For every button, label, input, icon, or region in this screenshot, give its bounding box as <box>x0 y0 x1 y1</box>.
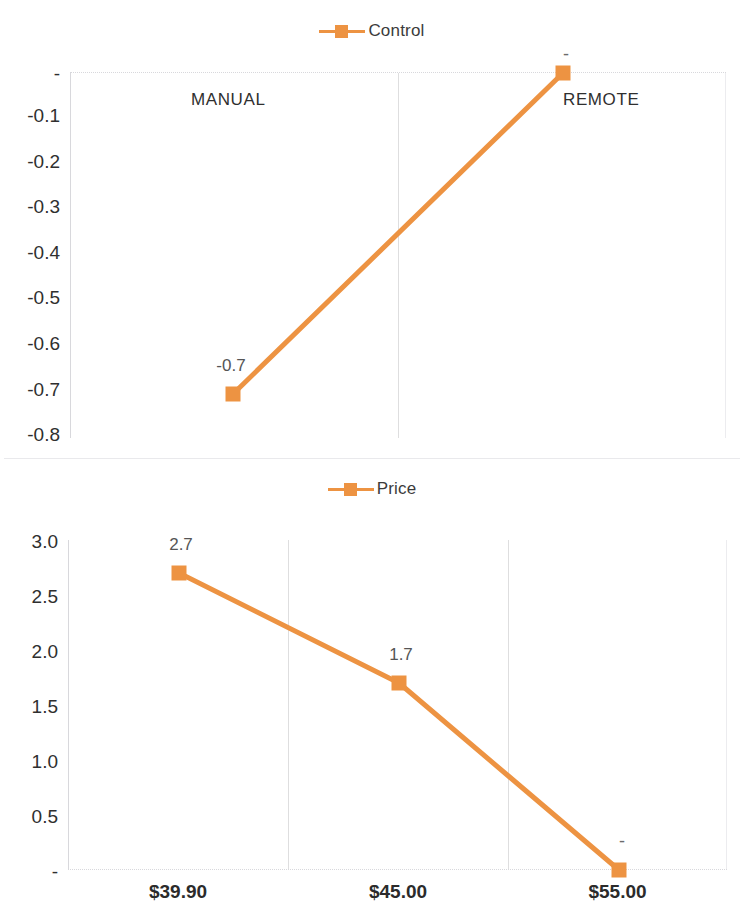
ytick-control-1: -0.1 <box>8 106 60 125</box>
legend-label-control: Control <box>368 21 424 41</box>
plot-right-border <box>725 73 726 438</box>
ytick-control-8: -0.8 <box>8 425 60 444</box>
data-label-remote: - <box>563 45 569 63</box>
ytick-price-2: 2.0 <box>8 642 58 661</box>
data-marker-remote[interactable] <box>556 66 571 81</box>
xtick-price-2: $55.00 <box>508 882 727 901</box>
data-marker-5500[interactable] <box>612 863 627 878</box>
ytick-price-0: 3.0 <box>8 532 58 551</box>
category-label-manual: MANUAL <box>191 91 265 108</box>
panel-divider <box>4 458 740 459</box>
ytick-price-6: - <box>8 862 58 881</box>
ytick-price-4: 1.0 <box>8 752 58 771</box>
ytick-control-7: -0.7 <box>8 380 60 399</box>
gridline-vertical-1 <box>288 540 289 869</box>
plot-right-border <box>726 540 727 869</box>
data-marker-manual[interactable] <box>226 387 241 402</box>
series-line-control <box>71 73 727 439</box>
xtick-price-0: $39.90 <box>68 882 288 901</box>
ytick-control-3: -0.3 <box>8 197 60 216</box>
legend-item-price[interactable]: Price <box>328 479 417 499</box>
ytick-price-1: 2.5 <box>8 587 58 606</box>
ytick-control-5: -0.5 <box>8 288 60 307</box>
legend-item-control[interactable]: Control <box>319 21 424 41</box>
plot-area-control: MANUAL REMOTE -0.7 - <box>70 72 726 438</box>
data-label-4500: 1.7 <box>389 646 413 663</box>
legend-label-price: Price <box>377 479 417 499</box>
ytick-control-6: -0.6 <box>8 334 60 353</box>
legend-marker-icon <box>319 23 365 39</box>
chart-control: Control - -0.1 -0.2 -0.3 -0.4 -0.5 -0.6 … <box>0 0 744 458</box>
legend-marker-icon <box>328 481 374 497</box>
legend-price: Price <box>0 476 744 502</box>
plot-area-price: 2.7 1.7 - <box>68 540 727 870</box>
ytick-price-3: 1.5 <box>8 697 58 716</box>
data-label-manual: -0.7 <box>216 357 245 374</box>
ytick-control-2: -0.2 <box>8 152 60 171</box>
series-line-price <box>69 540 728 870</box>
legend-control: Control <box>0 18 744 44</box>
ytick-control-4: -0.4 <box>8 243 60 262</box>
data-label-5500: - <box>619 832 625 850</box>
xtick-price-1: $45.00 <box>288 882 508 901</box>
gridline-vertical-2 <box>508 540 509 869</box>
chart-price: Price 3.0 2.5 2.0 1.5 1.0 0.5 - 2.7 1.7 <box>0 458 744 917</box>
category-label-remote: REMOTE <box>563 91 639 108</box>
ytick-control-0: - <box>8 64 60 83</box>
data-marker-3990[interactable] <box>172 566 187 581</box>
ytick-price-5: 0.5 <box>8 807 58 826</box>
charts-page: Control - -0.1 -0.2 -0.3 -0.4 -0.5 -0.6 … <box>0 0 744 917</box>
data-marker-4500[interactable] <box>392 676 407 691</box>
gridline-vertical <box>398 73 399 438</box>
data-label-3990: 2.7 <box>169 536 193 553</box>
